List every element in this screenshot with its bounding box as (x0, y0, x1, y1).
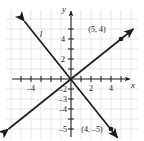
x-tick-label-4: 4 (109, 84, 113, 93)
line-name-label: l (40, 29, 43, 39)
y-tick-label-4: 4 (61, 35, 65, 44)
point-label-5-4: (5, 4) (88, 25, 106, 34)
y-tick-label-2: 2 (61, 55, 65, 64)
x-axis-label: x (130, 80, 135, 90)
graph-svg: y x –4 2 4 4 2 –2 –3 –4 –5 (5, 4) (4, –5… (0, 0, 144, 141)
y-tick-label-neg3: –3 (58, 95, 67, 104)
y-axis-label: y (61, 4, 66, 14)
axes (12, 11, 130, 137)
y-tick-label-neg4: –4 (58, 105, 67, 114)
point-marker-5-4 (119, 37, 124, 42)
coordinate-plane-figure: y x –4 2 4 4 2 –2 –3 –4 –5 (5, 4) (4, –5… (0, 0, 144, 141)
x-tick-label-neg4: –4 (26, 84, 35, 93)
y-tick-label-neg2: –2 (58, 85, 67, 94)
point-label-4-neg5: (4, –5) (81, 125, 103, 134)
y-tick-label-neg5: –5 (58, 125, 67, 134)
x-tick-label-2: 2 (89, 84, 93, 93)
point-marker-4-neg5 (109, 127, 114, 132)
